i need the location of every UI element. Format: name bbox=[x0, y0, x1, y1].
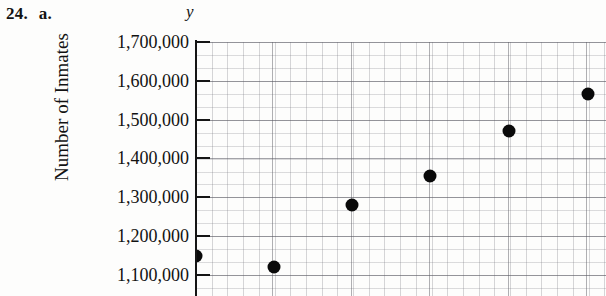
y-axis-tick-mark bbox=[197, 157, 210, 159]
figure-page: 24.a. y Number of Inmates 1,700,0001,600… bbox=[0, 0, 606, 296]
y-axis-tick-mark bbox=[197, 274, 210, 276]
y-axis-title: Number of Inmates bbox=[51, 7, 73, 207]
data-point bbox=[268, 261, 281, 274]
y-axis-line bbox=[195, 40, 197, 296]
gridline-horizontal bbox=[196, 275, 606, 276]
gridline-horizontal bbox=[196, 158, 606, 159]
gridline-vertical bbox=[272, 42, 273, 296]
data-point bbox=[346, 199, 359, 212]
y-axis-tick-label: 1,700,000 bbox=[117, 33, 189, 51]
y-axis-tick-label: 1,100,000 bbox=[117, 266, 189, 284]
gridline-horizontal bbox=[196, 120, 606, 121]
gridline-horizontal bbox=[196, 81, 606, 82]
y-axis-tick-mark bbox=[197, 119, 210, 121]
gridline-vertical bbox=[586, 42, 587, 296]
gridline-horizontal bbox=[196, 42, 606, 43]
data-point bbox=[582, 88, 595, 101]
y-axis-tick-label: 1,600,000 bbox=[117, 72, 189, 90]
y-axis-tick-labels: 1,700,0001,600,0001,500,0001,400,0001,30… bbox=[96, 0, 192, 296]
gridline-vertical bbox=[508, 42, 509, 296]
plot-area bbox=[196, 42, 606, 296]
y-axis-tick-label: 1,200,000 bbox=[117, 227, 189, 245]
y-axis-tick-mark bbox=[197, 235, 210, 237]
exercise-label: 24.a. bbox=[6, 4, 52, 24]
exercise-number: 24. bbox=[6, 4, 28, 23]
data-point bbox=[503, 125, 516, 138]
y-axis-tick-label: 1,400,000 bbox=[117, 149, 189, 167]
gridline-horizontal bbox=[196, 236, 606, 237]
gridline-horizontal bbox=[196, 197, 606, 198]
gridline-vertical bbox=[351, 42, 352, 296]
y-axis-tick-label: 1,500,000 bbox=[117, 111, 189, 129]
y-axis-tick-mark bbox=[197, 41, 210, 43]
y-axis-tick-label: 1,300,000 bbox=[117, 188, 189, 206]
y-axis-tick-mark bbox=[197, 80, 210, 82]
data-point bbox=[424, 169, 437, 182]
y-axis-tick-mark bbox=[197, 196, 210, 198]
